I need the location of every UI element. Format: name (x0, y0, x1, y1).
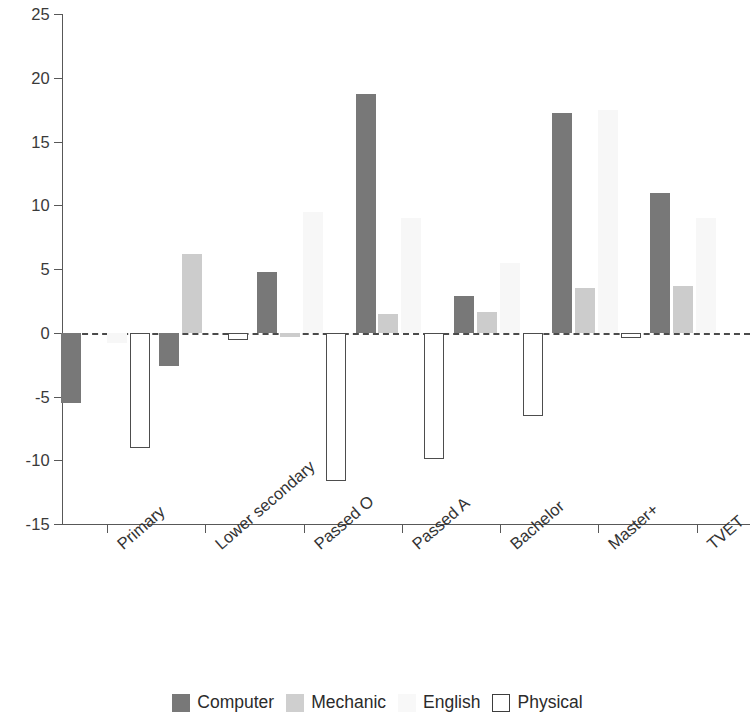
legend-label: Computer (197, 694, 274, 712)
bar-computer-passed-o (257, 272, 277, 333)
bar-computer-bachelor (454, 296, 474, 333)
x-axis-tick (598, 524, 599, 533)
y-axis-tick-label: 15 (0, 134, 50, 151)
bar-physical-passed-a (424, 333, 444, 459)
legend-item-mechanic[interactable]: Mechanic (286, 694, 386, 712)
y-axis-tick-label: -15 (0, 516, 50, 533)
legend-swatch-english-icon (398, 694, 416, 712)
bar-physical-master- (621, 333, 641, 338)
x-axis-tick (107, 524, 108, 533)
x-axis-tick (500, 524, 501, 533)
bar-group (652, 14, 750, 524)
legend-label: English (423, 694, 480, 712)
y-axis-tick-label: 25 (0, 6, 50, 23)
x-axis-tick (304, 524, 305, 533)
legend-swatch-computer-icon (172, 694, 190, 712)
x-axis-tick (697, 524, 698, 533)
bar-computer-primary (61, 333, 81, 403)
x-axis-tick (205, 524, 206, 533)
bar-chart: 2520151050-5-10-15 PrimaryLower secondar… (0, 0, 755, 722)
legend-item-english[interactable]: English (398, 694, 480, 712)
bar-physical-passed-o (326, 333, 346, 481)
chart-legend: ComputerMechanicEnglishPhysical (0, 694, 755, 712)
y-axis-tick-label: 0 (0, 325, 50, 342)
plot-area (62, 14, 750, 524)
x-axis-tick (402, 524, 403, 533)
bar-physical-lower-secondary (228, 333, 248, 341)
y-axis-tick-label: 20 (0, 70, 50, 87)
legend-swatch-physical-icon (492, 694, 510, 712)
bar-computer-lower-secondary (159, 333, 179, 366)
bar-group (62, 14, 160, 524)
bar-computer-master- (552, 113, 572, 332)
bar-computer-passed-a (356, 94, 376, 332)
bar-english-bachelor (500, 263, 520, 333)
legend-item-physical[interactable]: Physical (492, 694, 582, 712)
bar-computer-tvet (650, 193, 670, 333)
y-axis-tick-label: 10 (0, 197, 50, 214)
legend-label: Physical (517, 694, 582, 712)
bar-mechanic-passed-o (280, 333, 300, 337)
bar-group (259, 14, 357, 524)
bar-mechanic-tvet (673, 286, 693, 333)
bar-group (553, 14, 651, 524)
bar-english-primary (107, 333, 127, 343)
bar-group (455, 14, 553, 524)
bar-english-master- (598, 110, 618, 333)
legend-label: Mechanic (311, 694, 386, 712)
bar-mechanic-master- (575, 288, 595, 333)
bar-physical-primary (130, 333, 150, 448)
bar-mechanic-lower-secondary (182, 254, 202, 333)
bar-english-tvet (696, 218, 716, 333)
bar-english-passed-a (401, 218, 421, 333)
legend-swatch-mechanic-icon (286, 694, 304, 712)
bar-mechanic-passed-a (378, 314, 398, 333)
bar-english-passed-o (303, 212, 323, 333)
bar-physical-bachelor (523, 333, 543, 416)
y-axis-tick-label: -5 (0, 389, 50, 406)
y-axis-tick-label: -10 (0, 452, 50, 469)
y-axis-tick-label: 5 (0, 261, 50, 278)
bar-group (357, 14, 455, 524)
legend-item-computer[interactable]: Computer (172, 694, 274, 712)
bar-mechanic-bachelor (477, 312, 497, 332)
bar-group (160, 14, 258, 524)
y-axis-tick (54, 524, 63, 525)
